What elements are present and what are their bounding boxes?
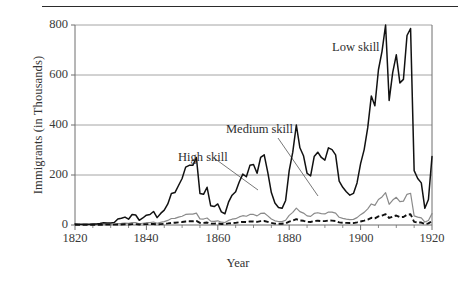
annotation-high-skill: High skill xyxy=(178,150,228,165)
x-tick-marks xyxy=(75,225,432,230)
chart-figure: Immigrants (in Thousands) Year 800 600 4… xyxy=(0,0,476,286)
x-tick-label-1880: 1880 xyxy=(265,231,313,246)
y-tick-label-600: 600 xyxy=(34,67,68,82)
header-rule xyxy=(42,6,458,7)
y-tick-marks xyxy=(71,25,75,225)
annotation-low-skill: Low skill xyxy=(332,40,380,55)
x-tick-label-1920: 1920 xyxy=(408,231,456,246)
y-tick-label-800: 800 xyxy=(34,17,68,32)
x-axis-title: Year xyxy=(0,256,476,271)
x-tick-label-1860: 1860 xyxy=(194,231,242,246)
y-tick-label-400: 400 xyxy=(34,117,68,132)
x-tick-label-1820: 1820 xyxy=(51,231,99,246)
x-tick-label-1900: 1900 xyxy=(337,231,385,246)
y-tick-label-200: 200 xyxy=(34,167,68,182)
annotation-medium-skill: Medium skill xyxy=(226,122,293,137)
x-tick-label-1840: 1840 xyxy=(122,231,170,246)
y-tick-label-0: 0 xyxy=(34,217,68,232)
